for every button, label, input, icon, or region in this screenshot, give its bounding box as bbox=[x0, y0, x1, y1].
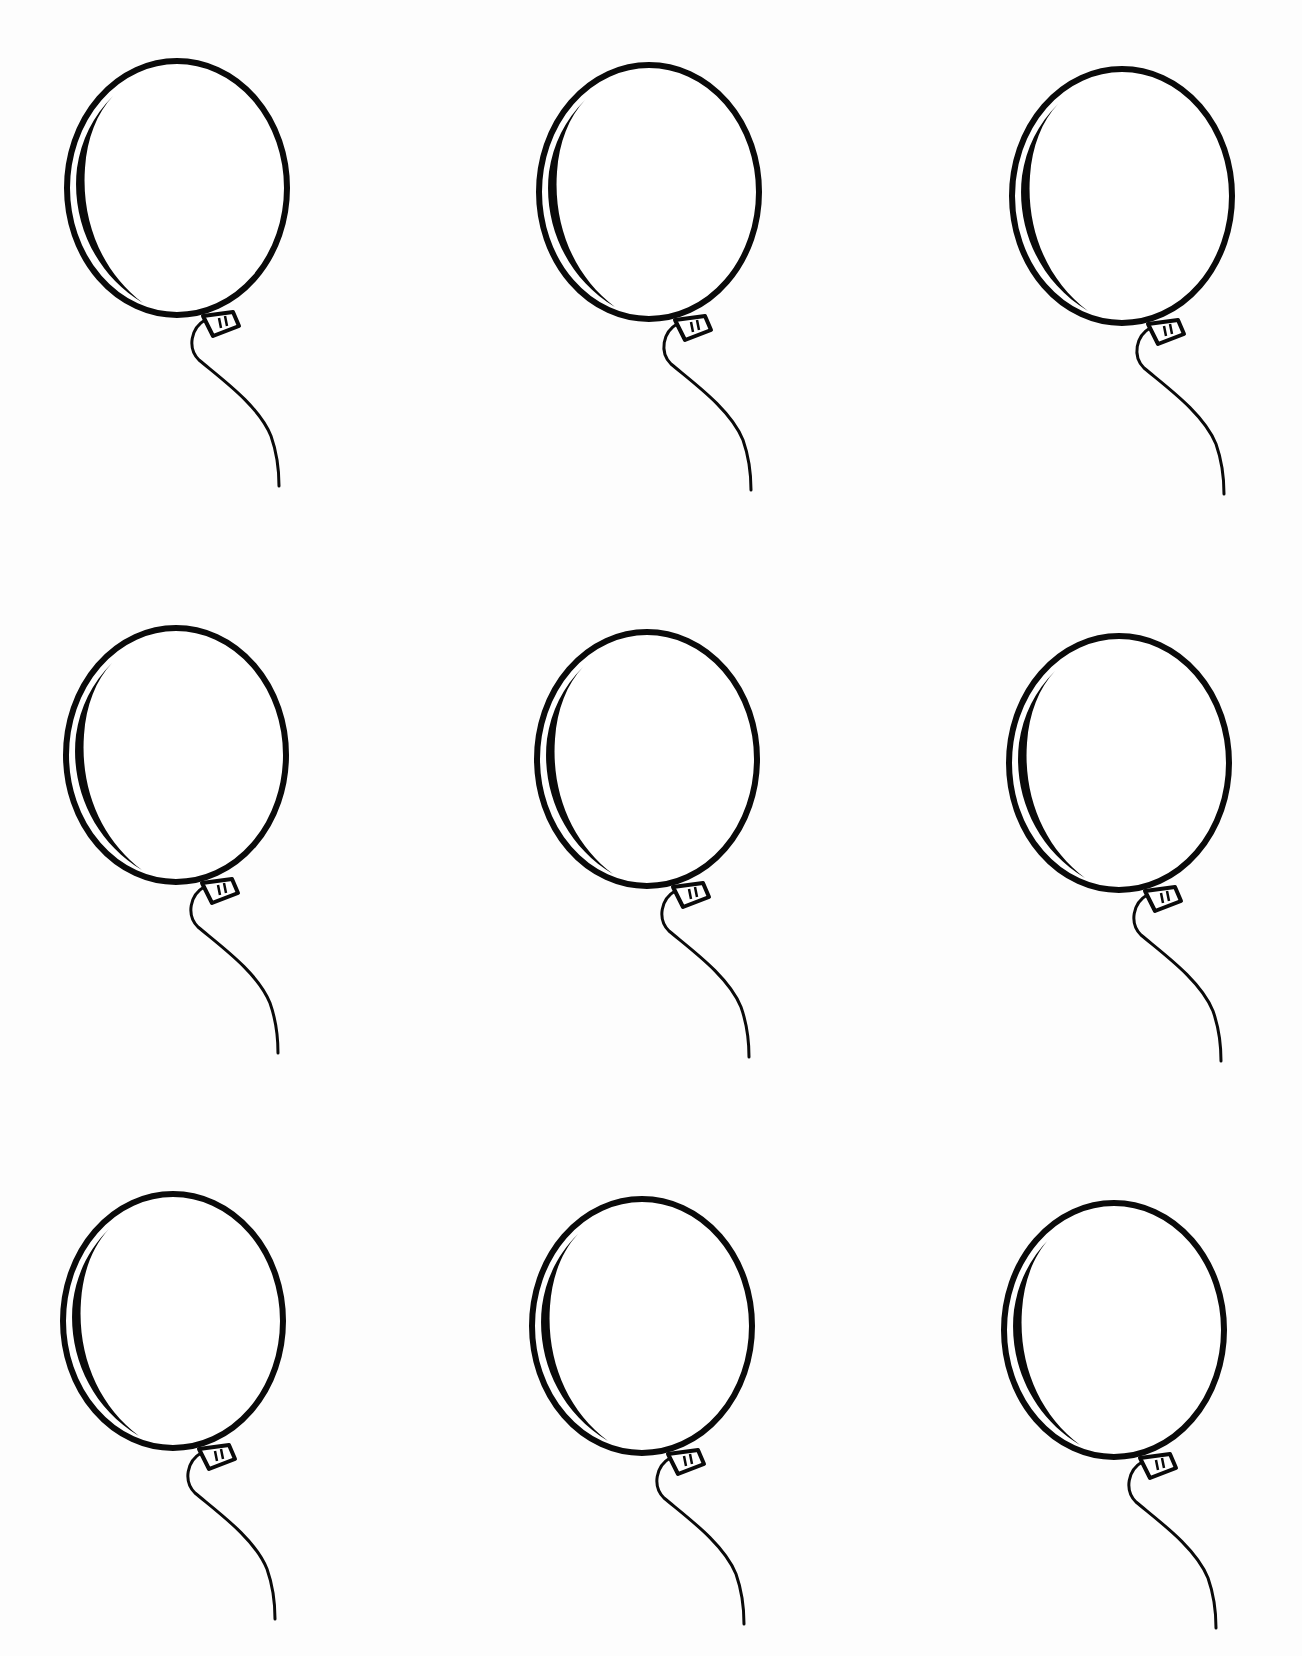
balloon-icon bbox=[539, 65, 759, 490]
balloon-outline bbox=[66, 628, 286, 1053]
balloon-outline bbox=[537, 632, 757, 1057]
balloon-icon bbox=[1012, 69, 1232, 494]
balloon-outline bbox=[532, 1199, 752, 1624]
balloon-icon bbox=[66, 628, 286, 1053]
balloon-icon bbox=[1004, 1203, 1224, 1628]
balloon-icon bbox=[532, 1199, 752, 1624]
balloon-outline bbox=[1012, 69, 1232, 494]
balloon-sheet bbox=[0, 0, 1302, 1656]
balloon-icon bbox=[67, 61, 287, 486]
balloon-icon bbox=[537, 632, 757, 1057]
balloon-outline bbox=[67, 61, 287, 486]
coloring-page bbox=[0, 0, 1302, 1656]
balloon-grid bbox=[63, 61, 1232, 1628]
balloon-outline bbox=[539, 65, 759, 490]
balloon-outline bbox=[63, 1194, 283, 1619]
balloon-icon bbox=[63, 1194, 283, 1619]
balloon-outline bbox=[1004, 1203, 1224, 1628]
balloon-icon bbox=[1009, 636, 1229, 1061]
balloon-outline bbox=[1009, 636, 1229, 1061]
